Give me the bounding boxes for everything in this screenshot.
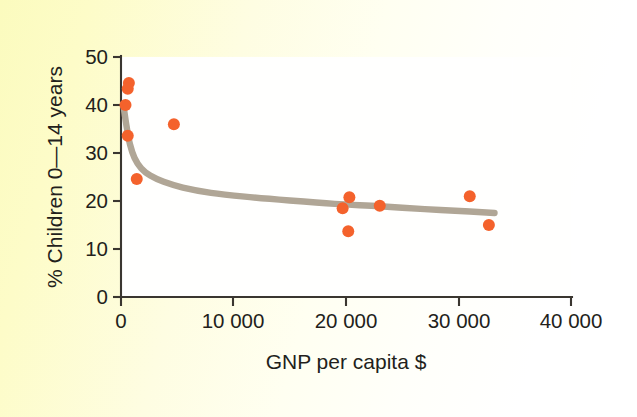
y-axis-title: % Children 0—14 years bbox=[43, 66, 66, 288]
y-tick-label-30: 30 bbox=[85, 141, 108, 164]
y-tick-labels: 50 40 30 20 10 0 bbox=[85, 45, 108, 308]
y-tick-label-20: 20 bbox=[85, 189, 108, 212]
data-point bbox=[343, 191, 355, 203]
y-tick-label-40: 40 bbox=[85, 93, 108, 116]
x-tick-label-10000: 10 000 bbox=[202, 309, 265, 332]
trend-curve bbox=[123, 104, 494, 213]
data-point bbox=[483, 219, 495, 231]
x-tick-label-40000: 40 000 bbox=[540, 309, 603, 332]
x-axis-title: GNP per capita $ bbox=[266, 350, 427, 373]
data-point bbox=[120, 99, 132, 111]
data-point bbox=[464, 190, 476, 202]
x-tick-label-0: 0 bbox=[115, 309, 126, 332]
axes-group bbox=[120, 56, 572, 297]
data-points-group bbox=[120, 77, 495, 237]
y-tick-label-50: 50 bbox=[85, 45, 108, 68]
data-point bbox=[168, 118, 180, 130]
data-point bbox=[122, 83, 134, 95]
x-tick-labels: 0 10 000 20 000 30 000 40 000 bbox=[115, 309, 602, 332]
x-axis-ticks bbox=[121, 297, 571, 306]
x-tick-label-30000: 30 000 bbox=[428, 309, 491, 332]
data-point bbox=[131, 173, 143, 185]
data-point bbox=[342, 225, 354, 237]
figure-canvas: 50 40 30 20 10 0 0 10 000 20 000 30 000 … bbox=[0, 0, 637, 417]
y-tick-label-10: 10 bbox=[85, 237, 108, 260]
data-point bbox=[374, 200, 386, 212]
y-axis-ticks bbox=[113, 57, 121, 297]
data-point bbox=[122, 130, 134, 142]
x-tick-label-20000: 20 000 bbox=[315, 309, 378, 332]
data-point bbox=[337, 202, 349, 214]
y-tick-label-0: 0 bbox=[97, 285, 108, 308]
scatter-chart: 50 40 30 20 10 0 0 10 000 20 000 30 000 … bbox=[0, 0, 637, 417]
